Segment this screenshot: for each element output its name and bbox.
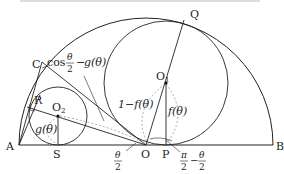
geometry-diagram: A B C O P Q R S O1 O2 cos θ 2 − g(θ) g(θ… <box>0 0 284 174</box>
label-r: R <box>34 94 43 107</box>
label-pi: π <box>180 150 188 160</box>
point-o2-dot <box>56 114 59 117</box>
label-cos-g: g(θ) <box>84 56 106 69</box>
label-half-theta-num: θ <box>115 150 121 160</box>
pointer-theta <box>126 143 136 151</box>
label-c: C <box>32 58 40 71</box>
label-o2: O2 <box>52 101 66 115</box>
label-cos: cos <box>47 56 66 69</box>
label-pi-theta: θ <box>199 150 205 160</box>
label-p: P <box>162 148 170 161</box>
label-o: O <box>141 148 150 161</box>
label-b: B <box>276 140 284 153</box>
label-cos-theta: θ <box>67 52 73 62</box>
label-q: Q <box>190 8 199 21</box>
label-f-theta: f(θ) <box>167 105 187 118</box>
dashed-arc-cos <box>60 116 146 144</box>
label-a: A <box>5 140 15 153</box>
label-s: S <box>53 148 61 161</box>
label-pi-two: 2 <box>181 162 187 172</box>
cutoff-text-strip <box>20 0 260 2</box>
label-pi-theta-two: 2 <box>199 162 205 172</box>
label-cos-two: 2 <box>67 64 73 74</box>
label-o1: O1 <box>156 70 170 84</box>
label-one-minus-f: 1−f(θ) <box>118 98 154 111</box>
label-pi-minus: − <box>190 155 198 166</box>
label-g-theta: g(θ) <box>35 123 57 136</box>
label-half-theta-den: 2 <box>115 162 121 172</box>
